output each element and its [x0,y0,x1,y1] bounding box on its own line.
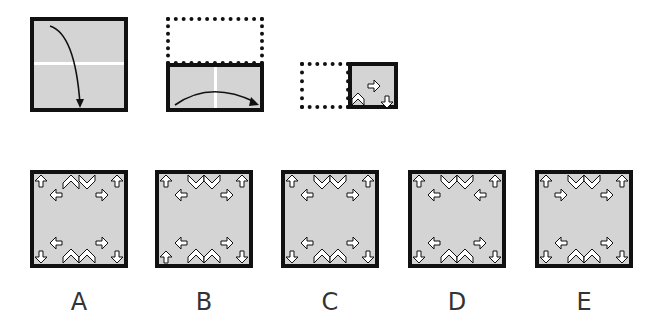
option-e-symbols [0,0,647,331]
arrow-up-icon [540,175,552,187]
arrow-right-icon [555,189,567,201]
arrow-down-icon [616,251,628,263]
arrow-left-icon [555,237,567,249]
arrow-right-icon [601,189,613,201]
chevron-down-icon [568,175,584,189]
option-e-label[interactable]: E [564,288,604,316]
chevron-up-icon [568,249,584,263]
arrow-right-icon [601,237,613,249]
arrow-up-icon [616,175,628,187]
chevron-up-icon [584,249,600,263]
chevron-down-icon [584,175,600,189]
arrow-down-icon [540,251,552,263]
